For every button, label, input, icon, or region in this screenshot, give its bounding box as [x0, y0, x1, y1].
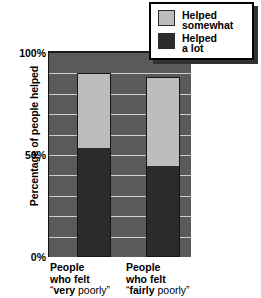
legend-swatch-helped-somewhat — [158, 10, 175, 26]
y-axis-tick-labels: 100% 50% 0% — [0, 0, 46, 298]
y-tick-label-100: 100% — [2, 48, 46, 59]
bar-category-1 — [77, 73, 111, 257]
x-label-1-emphasis: very — [54, 284, 76, 296]
bar-segment-helped-somewhat-2 — [147, 78, 179, 166]
y-tick-label-50: 50% — [2, 150, 46, 161]
x-label-2-emphasis: fairly — [130, 284, 155, 296]
x-label-2-quote-close: poorly” — [155, 284, 190, 296]
legend-label-helped-somewhat: Helped somewhat — [182, 10, 233, 31]
legend-label-helped-a-lot: Helped a lot — [182, 33, 217, 54]
legend-swatch-helped-a-lot — [158, 33, 175, 49]
legend: Helped somewhat Helped a lot — [149, 2, 254, 60]
x-label-category-1: People who felt “very poorly” — [50, 262, 110, 297]
bar-segment-helped-somewhat-1 — [78, 74, 110, 147]
gridline-90 — [49, 73, 191, 74]
x-label-category-2: People who felt “fairly poorly” — [126, 262, 190, 297]
x-label-2-line3: “fairly poorly” — [126, 285, 190, 297]
legend-item-helped-somewhat: Helped somewhat — [158, 10, 233, 31]
y-tick-label-0: 0% — [2, 252, 46, 263]
stacked-bar-chart: Percentage of people helped 100% 50% 0% … — [0, 0, 261, 298]
bar-segment-helped-a-lot-2 — [147, 166, 179, 256]
x-axis-category-labels: People who felt “very poorly” People who… — [48, 262, 261, 298]
bar-category-2 — [146, 77, 180, 257]
x-label-1-line3: “very poorly” — [50, 285, 110, 297]
x-label-1-quote-close: poorly” — [75, 284, 110, 296]
bar-segment-helped-a-lot-1 — [78, 148, 110, 256]
x-label-1-line1: People — [50, 262, 110, 274]
plot-area — [48, 53, 191, 257]
legend-item-helped-a-lot: Helped a lot — [158, 33, 217, 54]
x-label-2-line1: People — [126, 262, 190, 274]
